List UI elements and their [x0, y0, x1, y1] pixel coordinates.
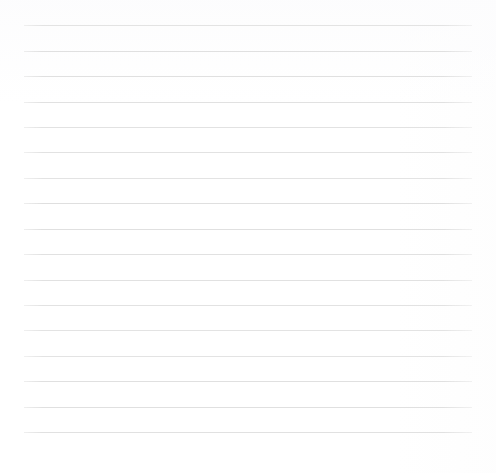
ruled-line [24, 152, 472, 153]
ruled-line [24, 432, 472, 433]
ruled-line [24, 305, 472, 306]
ruled-line [24, 407, 472, 408]
ruled-paper-page [0, 0, 496, 473]
ruled-line [24, 330, 472, 331]
ruled-line [24, 381, 472, 382]
ruled-line [24, 254, 472, 255]
ruled-line [24, 229, 472, 230]
ruled-line [24, 76, 472, 77]
ruled-line [24, 25, 472, 26]
ruled-line [24, 127, 472, 128]
ruled-line [24, 203, 472, 204]
ruled-lines-area [0, 0, 496, 473]
ruled-line [24, 178, 472, 179]
ruled-line [24, 356, 472, 357]
ruled-line [24, 51, 472, 52]
ruled-line [24, 102, 472, 103]
ruled-line [24, 280, 472, 281]
